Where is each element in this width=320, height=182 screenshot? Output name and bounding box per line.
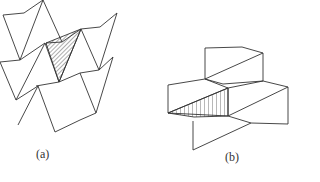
panel-a-label: (a) [36,147,49,162]
hatched-facet-b [168,88,228,117]
panel-b-label: (b) [225,150,239,165]
panel-b-structure [168,47,288,150]
